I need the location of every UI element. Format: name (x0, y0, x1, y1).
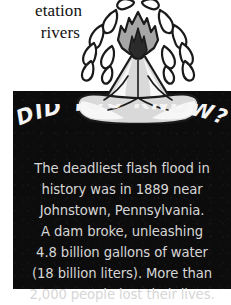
fact-body-line: The deadliest flash flood in (13, 158, 231, 179)
droplet (142, 0, 159, 9)
droplet (173, 25, 187, 49)
page-body-text-line: rivers (0, 22, 86, 44)
plume-body (118, 12, 158, 56)
droplet (82, 61, 93, 81)
fact-body-text: The deadliest flash flood in history was… (13, 158, 231, 305)
droplet (164, 66, 174, 84)
fact-body-line: (18 billion liters). More than (13, 263, 231, 284)
page-body-text: etation rivers (0, 0, 86, 44)
fact-body-line: Johnstown, Pennsylvania. (13, 200, 231, 221)
droplet (117, 0, 134, 9)
droplet (103, 10, 117, 33)
fact-body-line: history was in 1889 near (13, 179, 231, 200)
droplet (180, 43, 193, 65)
droplet (101, 46, 114, 68)
page-body-text-line: etation (0, 0, 86, 22)
droplet (183, 61, 194, 81)
droplet (90, 25, 104, 49)
fact-body-line: A dam broke, unleashing (13, 221, 231, 242)
droplet (159, 10, 173, 33)
fact-body-line: 2,000 people lost their lives. (13, 284, 231, 305)
droplet (83, 43, 96, 65)
droplet (102, 66, 112, 84)
plume-core (129, 28, 147, 60)
droplet (162, 46, 175, 68)
fact-body-line: 4.8 billion gallons of water (13, 242, 231, 263)
